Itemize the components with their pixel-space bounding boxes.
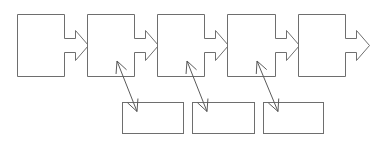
chevron-arrow-shape <box>158 15 229 77</box>
chevron-arrow-shape <box>88 15 159 77</box>
process-step-2[interactable] <box>88 15 159 77</box>
chevron-arrow-shape <box>299 15 370 77</box>
process-step-3[interactable] <box>158 15 229 77</box>
process-step-5[interactable] <box>299 15 370 77</box>
chevron-arrow-shape <box>18 15 89 77</box>
flow-diagram <box>0 0 385 142</box>
process-step-1[interactable] <box>18 15 89 77</box>
